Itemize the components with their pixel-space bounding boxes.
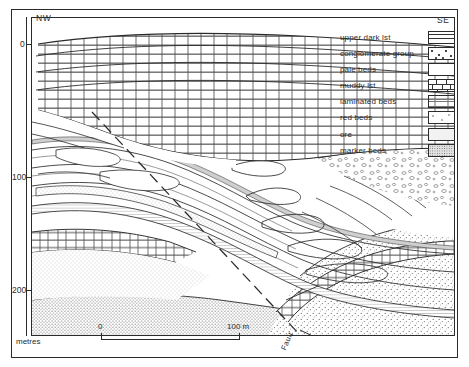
legend-label: ore bbox=[340, 130, 352, 139]
scale-bar-line bbox=[101, 339, 240, 340]
legend-item-ore: ore bbox=[340, 128, 456, 144]
depth-axis-unit-label: metres bbox=[16, 337, 40, 346]
legend-swatch-pale-beds bbox=[428, 63, 455, 76]
legend-label: marker beds bbox=[340, 146, 386, 155]
legend-swatch-conglomerate-group bbox=[428, 47, 455, 60]
legend-label: laminated beds bbox=[340, 97, 396, 106]
legend-swatch-ore bbox=[428, 128, 455, 141]
scale-bar-label-left: 0 bbox=[98, 322, 102, 331]
legend-item-pale-beds: pale beds bbox=[340, 63, 456, 79]
scale-bar-tick-left bbox=[101, 333, 102, 340]
legend-swatch-red-beds bbox=[428, 111, 455, 124]
scale-bar-tick-right bbox=[239, 333, 240, 340]
legend-swatch-muddy-lst bbox=[428, 79, 455, 92]
depth-tick-0 bbox=[26, 44, 32, 45]
legend-label: muddy lst bbox=[340, 81, 376, 90]
legend-item-marker-beds: marker beds bbox=[340, 144, 456, 160]
legend-item-muddy-lst: muddy lst bbox=[340, 79, 456, 95]
legend-label: pale beds bbox=[340, 65, 376, 74]
legend-swatch-upper-dark-lst bbox=[428, 31, 455, 44]
depth-tick-200 bbox=[26, 290, 32, 291]
legend-label: conglomerate group bbox=[340, 49, 414, 58]
legend-item-red-beds: red beds bbox=[340, 111, 456, 127]
depth-label-100: 100 bbox=[12, 172, 26, 182]
depth-label-0: 0 bbox=[20, 39, 25, 49]
orientation-label-se: SE bbox=[437, 15, 450, 25]
depth-label-200: 200 bbox=[12, 285, 26, 295]
legend-item-laminated-beds: laminated beds bbox=[340, 95, 456, 111]
legend-item-upper-dark-lst: upper dark lst bbox=[340, 31, 456, 47]
legend-label: upper dark lst bbox=[340, 33, 391, 42]
orientation-label-nw: NW bbox=[36, 13, 51, 23]
legend: upper dark lst conglomerate group pale b… bbox=[340, 31, 456, 160]
legend-swatch-laminated-beds bbox=[428, 95, 455, 108]
legend-item-conglomerate-group: conglomerate group bbox=[340, 47, 456, 63]
legend-label: red beds bbox=[340, 113, 372, 122]
brick-pattern-icon bbox=[429, 80, 454, 91]
depth-tick-100 bbox=[26, 177, 32, 178]
legend-swatch-marker-beds bbox=[428, 144, 455, 157]
scale-bar-label-right: 100 m bbox=[227, 322, 249, 331]
figure-root: NW SE 0 100 200 metres 0 100 m Fault upp… bbox=[0, 0, 469, 367]
